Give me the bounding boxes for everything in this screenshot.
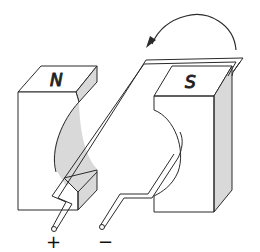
south-pole-label: S — [185, 72, 196, 92]
rotation-arrow-icon — [146, 15, 236, 50]
north-pole-label: N — [50, 70, 63, 90]
motor-diagram: N S + − — [0, 0, 260, 252]
negative-terminal — [100, 225, 105, 230]
positive-sign-label: + — [46, 231, 61, 252]
negative-sign-label: − — [98, 231, 113, 252]
